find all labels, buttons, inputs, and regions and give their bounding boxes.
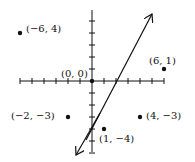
coordinate-plane: (−6, 4) (6, 1) (0, 0) (−2, −3) (4, −3) (… (0, 0, 195, 162)
label-neg2-neg3: (−2, −3) (11, 110, 55, 121)
label-neg6-4: (−6, 4) (26, 23, 61, 34)
point-dot (138, 115, 142, 119)
point-dot (162, 67, 166, 71)
point-dot (18, 31, 22, 35)
point-dot (90, 79, 94, 83)
point-dot (66, 115, 70, 119)
label-1-neg4: (1, −4) (99, 133, 134, 144)
label-4-neg3: (4, −3) (146, 110, 181, 121)
label-origin: (0, 0) (61, 68, 88, 79)
graphed-line-lower-arrow (76, 113, 100, 155)
point-dot (102, 127, 106, 131)
label-6-1: (6, 1) (149, 55, 176, 66)
